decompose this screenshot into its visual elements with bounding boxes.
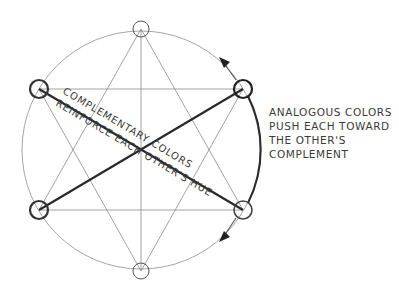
- analogous-note-line-1: ANALOGOUS COLORS: [269, 106, 392, 118]
- analogous-note-line-2: PUSH EACH TOWARD: [269, 120, 390, 132]
- analogous-note-line-3: THE OTHER'S: [268, 134, 346, 146]
- analogous-note-line-4: COMPLEMENT: [269, 148, 348, 160]
- node-top: [133, 21, 149, 37]
- analogous-arc: [248, 96, 261, 203]
- arrowhead-upper-icon: [219, 57, 230, 68]
- reinforce-label: REINFORCE EACH OTHER'S HUE: [54, 97, 214, 198]
- color-wheel-diagram: COMPLEMENTARY COLORS REINFORCE EACH OTHE…: [0, 0, 399, 295]
- arrowhead-lower-icon: [219, 231, 230, 242]
